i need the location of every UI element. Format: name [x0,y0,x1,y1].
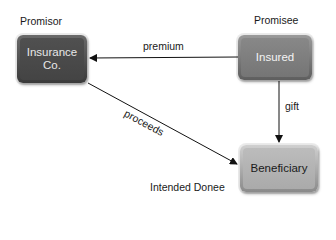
insurance-line1: Insurance [27,46,78,58]
proceeds-arrow [88,83,237,164]
insurance-company-label: Insurance Co. [27,46,78,72]
insurance-line2: Co. [43,59,61,71]
beneficiary-label: Beneficiary [251,162,308,175]
premium-edge-label: premium [143,40,184,52]
beneficiary-node: Beneficiary [240,145,318,192]
premium-arrow [90,57,238,58]
insured-label: Insured [256,51,294,64]
insurance-company-node: Insurance Co. [17,35,87,83]
gift-edge-label: gift [285,100,299,112]
insured-node: Insured [238,35,312,80]
